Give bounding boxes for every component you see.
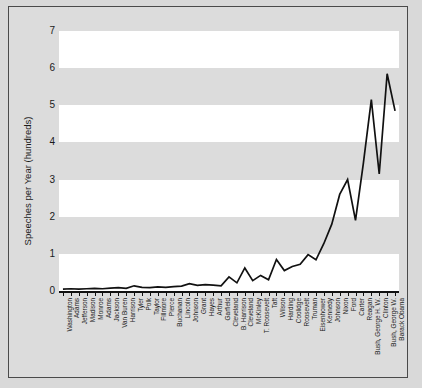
x-axis-label-taft: Taft <box>271 298 278 308</box>
y-tick-label-5: 5 <box>49 100 55 110</box>
x-axis-label-harrison: Harrison <box>129 298 136 322</box>
x-axis-label-buchanan: Buchanan <box>176 298 183 327</box>
y-tick-label-0: 0 <box>49 286 55 296</box>
x-tick-mark <box>253 292 254 296</box>
x-tick-mark <box>71 292 72 296</box>
y-axis-ticks: 01234567 <box>9 7 59 307</box>
speeches-per-year-line <box>63 74 395 289</box>
y-tick-label-6: 6 <box>49 63 55 73</box>
x-axis-label-carter: Carter <box>358 298 365 316</box>
x-axis-label-cleveland: Cleveland <box>232 298 239 326</box>
x-axis-label-taylor: Taylor <box>153 298 160 315</box>
x-axis-label-polk: Polk <box>145 298 152 310</box>
x-axis-label-coolidge: Coolidge <box>295 298 302 323</box>
x-axis-label-cleveland: Cleveland <box>247 298 254 326</box>
x-tick-mark <box>276 292 277 296</box>
x-tick-mark <box>174 292 175 296</box>
x-axis-label-garfield: Garfield <box>224 298 231 320</box>
x-tick-mark <box>158 292 159 296</box>
x-axis-label-lincoln: Lincoln <box>184 298 191 318</box>
x-axis-label-van-buren: Van Buren <box>121 298 128 328</box>
x-tick-mark <box>95 292 96 296</box>
y-tick-label-4: 4 <box>49 137 55 147</box>
x-axis-label-mckinley: McKinley <box>255 298 262 324</box>
x-axis-label-ford: Ford <box>350 298 357 311</box>
plot-area <box>59 31 399 291</box>
x-axis-label-johnson: Johnson <box>192 298 199 322</box>
x-axis-label-harding: Harding <box>287 298 294 320</box>
x-tick-mark <box>269 292 270 296</box>
x-tick-mark <box>110 292 111 296</box>
x-tick-mark <box>213 292 214 296</box>
x-axis-label-fillmore: Fillmore <box>160 298 167 321</box>
x-axis-label-t-roosevelt: T. Roosevelt <box>263 298 270 333</box>
x-tick-mark <box>332 292 333 296</box>
x-tick-mark <box>142 292 143 296</box>
x-axis-label-eisenhower: Eisenhower <box>319 298 326 331</box>
x-axis-label-tyler: Tyler <box>137 298 144 312</box>
x-axis-label-johnson: Johnson <box>334 298 341 322</box>
x-tick-mark <box>371 292 372 296</box>
x-tick-mark <box>387 292 388 296</box>
x-tick-mark <box>79 292 80 296</box>
x-axis-label-arthur: Arthur <box>216 298 223 315</box>
y-tick-label-3: 3 <box>49 175 55 185</box>
x-axis-label-kennedy: Kennedy <box>326 298 333 323</box>
x-axis-label-grant: Grant <box>200 298 207 314</box>
y-tick-label-1: 1 <box>49 249 55 259</box>
y-tick-label-2: 2 <box>49 212 55 222</box>
x-tick-mark <box>348 292 349 296</box>
x-axis-label-pierce: Pierce <box>168 298 175 316</box>
y-tick-label-7: 7 <box>49 26 55 36</box>
x-axis-label-hayes: Hayes <box>208 298 215 316</box>
x-tick-mark <box>182 292 183 296</box>
x-tick-mark <box>363 292 364 296</box>
x-axis-label-bush-george-w: Bush, George W. <box>390 298 397 347</box>
x-tick-mark <box>292 292 293 296</box>
x-tick-mark <box>395 292 396 296</box>
x-axis-label-b-harrison: B. Harrison <box>240 298 247 330</box>
x-tick-mark <box>205 292 206 296</box>
x-axis-label-bush-george-h-w: Bush, George H. W. <box>374 298 381 355</box>
x-axis-labels: WashingtonAdamsJeffersonMadisonMonroeAda… <box>59 298 399 384</box>
x-axis-label-reagan: Reagan <box>366 298 373 320</box>
x-axis-label-jefferson: Jefferson <box>81 298 88 324</box>
chart-figure: Speeches per Year (hundreds) 01234567 Wa… <box>8 6 408 378</box>
x-axis-tick-marks <box>59 292 399 296</box>
x-tick-mark <box>134 292 135 296</box>
x-tick-mark <box>102 292 103 296</box>
x-tick-mark <box>118 292 119 296</box>
x-axis-label-washington: Washington <box>66 298 73 332</box>
x-tick-mark <box>237 292 238 296</box>
x-axis-label-clinton: Clinton <box>382 298 389 318</box>
x-axis-label-monroe: Monroe <box>97 298 104 320</box>
x-axis-label-nixon: Nixon <box>342 298 349 314</box>
x-axis-label-roosevelt: Roosevelt <box>303 298 310 326</box>
x-tick-mark <box>245 292 246 296</box>
x-tick-mark <box>261 292 262 296</box>
x-tick-mark <box>324 292 325 296</box>
x-tick-mark <box>197 292 198 296</box>
x-tick-mark <box>308 292 309 296</box>
x-tick-mark <box>300 292 301 296</box>
line-series-svg <box>59 31 399 291</box>
x-tick-mark <box>379 292 380 296</box>
x-axis-label-barack-obama: Barack Obama <box>398 298 405 341</box>
x-tick-mark <box>316 292 317 296</box>
x-tick-mark <box>166 292 167 296</box>
x-axis-label-madison: Madison <box>89 298 96 322</box>
x-axis-label-adams: Adams <box>73 298 80 318</box>
x-tick-mark <box>150 292 151 296</box>
x-tick-mark <box>87 292 88 296</box>
x-tick-mark <box>229 292 230 296</box>
x-axis-label-jackson: Jackson <box>113 298 120 321</box>
x-tick-mark <box>189 292 190 296</box>
x-axis-label-adams: Adams <box>105 298 112 318</box>
x-axis-label-truman: Truman <box>311 298 318 320</box>
x-tick-mark <box>221 292 222 296</box>
x-tick-mark <box>340 292 341 296</box>
x-tick-mark <box>63 292 64 296</box>
x-axis-label-wilson: Wilson <box>279 298 286 317</box>
x-tick-mark <box>284 292 285 296</box>
x-tick-mark <box>356 292 357 296</box>
